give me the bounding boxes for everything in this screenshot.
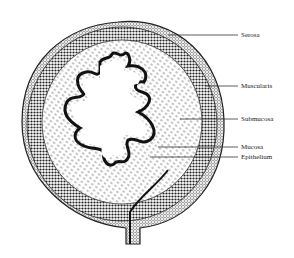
label-muscularis: Muscularis [241, 82, 272, 90]
label-epithelium: Epithelium [241, 153, 272, 161]
label-submucosa: Submucosa [241, 115, 273, 123]
label-serosa: Serosa [241, 31, 260, 39]
label-mucosa: Mucosa [241, 143, 263, 151]
